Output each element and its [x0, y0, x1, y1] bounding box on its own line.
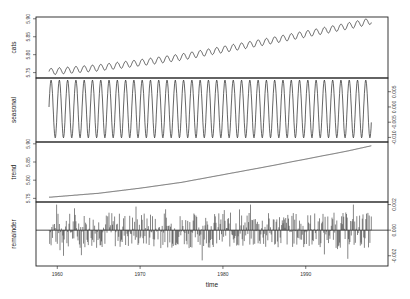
panel-label-remainder: remainder: [10, 219, 17, 249]
x-axis-label: time: [206, 281, 219, 288]
y-tick-label: 5.80: [25, 50, 31, 60]
y-tick-label: 5.90: [25, 139, 31, 149]
y-tick-label: -0.002: [391, 248, 397, 262]
panel-label-data: cats: [10, 41, 17, 54]
y-tick-label: 5.85: [25, 157, 31, 167]
series-trend: [49, 146, 371, 198]
series-remainder: [49, 205, 371, 261]
panel-trend: [36, 142, 388, 202]
y-tick-label: 5.80: [25, 175, 31, 185]
x-tick-label: 1980: [217, 271, 228, 277]
y-tick-label: 5.75: [25, 68, 31, 78]
y-tick-label: 0.005: [391, 85, 397, 98]
y-tick-label: 0.000: [391, 224, 397, 237]
panel-label-seasonal: seasonal: [10, 96, 17, 123]
x-tick-label: 1970: [135, 271, 146, 277]
y-tick-label: 5.85: [25, 32, 31, 42]
y-tick-label: 0.000: [391, 100, 397, 113]
y-tick-label: 5.90: [25, 14, 31, 24]
y-tick-label: 5.75: [25, 193, 31, 203]
series-seasonal: [49, 80, 371, 138]
y-tick-label: -0.010: [391, 130, 397, 144]
y-tick-label: -0.005: [391, 115, 397, 129]
x-tick-label: 1960: [52, 271, 63, 277]
y-tick-label: 0.002: [391, 198, 397, 211]
series-data: [49, 19, 371, 75]
panel-data: [36, 17, 388, 78]
stl-decomposition-chart: 5.755.805.855.90cats-0.010-0.0050.0000.0…: [0, 0, 410, 299]
panel-label-trend: trend: [10, 164, 17, 179]
x-tick-label: 1990: [300, 271, 311, 277]
